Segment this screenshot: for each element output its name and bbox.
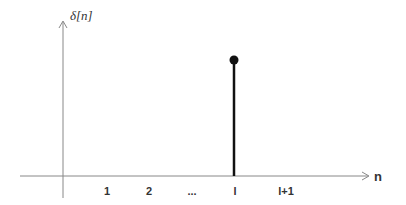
x-axis-label: n [374, 169, 382, 184]
x-tick: 1 [104, 185, 110, 197]
y-axis-label: δ[n] [70, 8, 93, 23]
diagram-svg: δ[n] n 1 2 ... l l+1 [0, 0, 406, 205]
impulse-dot [230, 56, 239, 65]
x-tick: 2 [146, 185, 152, 197]
impulse-diagram: δ[n] n 1 2 ... l l+1 [0, 0, 406, 205]
x-tick: l [233, 185, 236, 197]
x-tick: l+1 [278, 185, 294, 197]
x-tick: ... [187, 185, 196, 197]
